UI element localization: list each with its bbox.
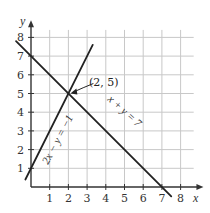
linear-system-graph: 1234567812345678 x + y = 7 2x − y = −1 (…	[0, 0, 210, 213]
x-axis-arrow-icon	[196, 184, 203, 190]
y-tick-label: 4	[17, 106, 24, 119]
y-tick-label: 7	[17, 50, 24, 63]
intersection-label: (2, 5)	[89, 76, 119, 89]
x-tick-label: 1	[46, 192, 53, 205]
y-axis-arrow-icon	[28, 20, 34, 27]
series-lines	[16, 41, 171, 196]
y-tick-label: 6	[17, 69, 24, 82]
x-tick-label: 3	[84, 192, 91, 205]
grid	[31, 30, 194, 187]
x-tick-label: 7	[158, 192, 165, 205]
x-axis-label: x	[192, 191, 199, 205]
x-tick-label: 5	[121, 192, 128, 205]
x-tick-label: 8	[177, 192, 184, 205]
x-tick-label: 2	[65, 192, 72, 205]
y-tick-label: 3	[17, 125, 24, 138]
intersection-annotation: (2, 5)	[70, 76, 118, 95]
y-tick-label: 2	[17, 144, 24, 157]
x-tick-label: 6	[140, 192, 147, 205]
line-x-plus-y-eq-7	[16, 41, 171, 196]
y-axis-label: y	[19, 14, 26, 28]
y-tick-label: 1	[17, 162, 24, 175]
x-tick-label: 4	[102, 192, 109, 205]
tick-labels: 1234567812345678	[17, 31, 184, 205]
y-tick-label: 5	[17, 88, 24, 101]
